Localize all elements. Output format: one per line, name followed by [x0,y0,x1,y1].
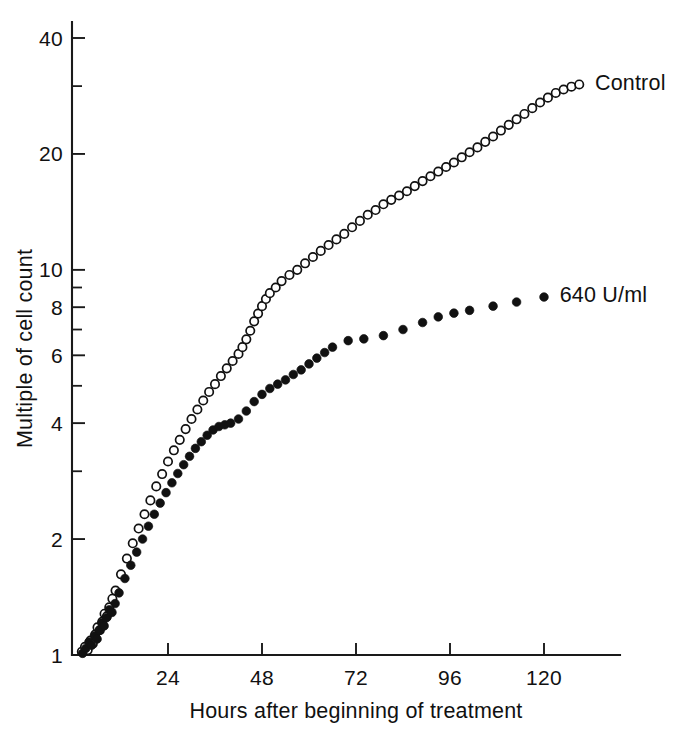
data-point [332,235,340,243]
data-point [411,182,419,190]
data-point [126,561,135,570]
data-point [328,343,337,352]
data-point [158,470,166,478]
data-point [181,425,189,433]
data-point [344,336,353,345]
data-point [450,158,458,166]
data-point [481,138,489,146]
data-point [93,635,102,644]
data-point [379,331,388,340]
data-point [250,397,259,406]
series-treated [78,293,548,658]
data-point [185,452,194,461]
x-tick-label-24: 24 [156,666,180,689]
data-point [309,253,317,261]
y-tick-label-2: 2 [51,528,63,551]
chart-series-labels: Control640 U/ml [560,71,666,307]
data-point [191,444,200,453]
data-point [395,191,403,199]
growth-curve-chart: 1246810204024487296120 Control640 U/ml H… [0,0,683,738]
data-point [348,223,356,231]
data-point [266,384,275,393]
data-point [313,354,322,363]
data-point [371,206,379,214]
data-point [179,460,188,469]
y-tick-label-10: 10 [39,258,63,281]
x-tick-label-48: 48 [250,666,274,689]
chart-ticks [72,38,544,655]
data-point [150,510,159,519]
data-point [540,293,549,302]
data-point [360,335,369,344]
data-point [138,535,147,544]
data-point [434,167,442,175]
data-point [242,407,251,416]
data-point [505,121,513,129]
data-point [211,380,219,388]
x-axis-title: Hours after beginning of treatment [189,699,522,723]
data-point [187,415,195,423]
data-point [121,574,130,583]
data-point [497,126,505,134]
data-point [379,200,387,208]
data-point [134,524,142,532]
y-tick-label-40: 40 [39,27,63,50]
data-point [418,318,427,327]
data-point [305,360,314,369]
data-point [520,110,528,118]
data-point [285,271,293,279]
data-point [450,309,459,318]
data-point [489,302,498,311]
data-point [489,132,497,140]
data-point [168,478,177,487]
y-tick-label-1: 1 [51,644,63,667]
data-point [426,172,434,180]
data-point [234,415,243,424]
data-point [100,622,109,631]
data-point [199,396,207,404]
data-point [226,419,235,428]
data-point [193,405,201,413]
data-point [173,469,182,478]
data-point [246,327,254,335]
data-point [317,247,325,255]
data-point [108,608,117,617]
data-point [129,539,137,547]
data-point [258,390,267,399]
data-point [156,499,165,508]
data-point [152,482,160,490]
data-point [403,187,411,195]
y-tick-label-8: 8 [51,296,63,319]
data-point [176,436,184,444]
data-point [297,366,306,375]
data-point [217,372,225,380]
data-point [324,241,332,249]
data-point [205,388,213,396]
data-point [434,313,443,322]
data-point [340,230,348,238]
data-point [465,148,473,156]
data-point [418,177,426,185]
data-point [144,522,153,531]
data-point [140,510,148,518]
data-point [356,217,364,225]
data-point [528,104,536,112]
y-tick-label-20: 20 [39,142,63,165]
data-point [170,446,178,454]
data-point [293,266,301,274]
data-point [575,80,583,88]
data-point [289,370,298,379]
x-tick-label-120: 120 [526,666,562,689]
data-point [458,153,466,161]
data-point [512,298,521,307]
data-point [544,93,552,101]
data-point [162,488,171,497]
y-axis-title: Multiple of cell count [13,249,37,448]
data-point [281,376,290,385]
data-point [465,306,474,315]
data-point [442,163,450,171]
data-point [512,115,520,123]
data-point [399,325,408,334]
x-tick-label-96: 96 [438,666,462,689]
y-tick-label-6: 6 [51,344,63,367]
